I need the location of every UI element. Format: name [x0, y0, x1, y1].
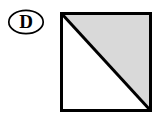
square-diagonal-diagram [60, 12, 152, 112]
answer-choice-letter: D [7, 9, 45, 35]
answer-choice-badge: D [7, 9, 45, 35]
square-diagonal-svg [60, 12, 152, 112]
figure-root: D [0, 0, 161, 125]
